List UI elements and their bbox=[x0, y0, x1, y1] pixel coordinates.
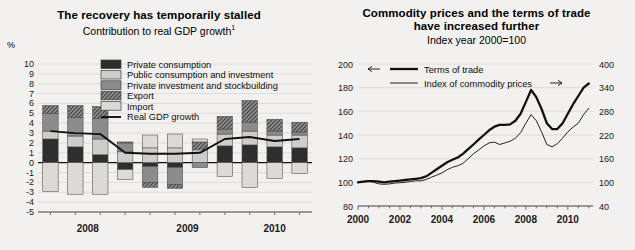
left-y-tick-label: 5 bbox=[29, 108, 34, 118]
bar-segment bbox=[117, 163, 132, 170]
bar-segment bbox=[217, 163, 232, 177]
right-x-tick-label: 2010 bbox=[557, 214, 580, 225]
bar-segment bbox=[43, 139, 58, 163]
legend-label: Public consumption and investment bbox=[127, 70, 274, 80]
bar-segment bbox=[43, 163, 58, 192]
bar-segment bbox=[142, 163, 157, 167]
right-chart-right-y-tick-label: 100 bbox=[599, 178, 614, 188]
bar-segment bbox=[192, 163, 207, 168]
bar-segment bbox=[43, 105, 58, 113]
left-chart-subtitle-footnote: 1 bbox=[231, 24, 235, 31]
bar-segment bbox=[142, 135, 157, 148]
legend-swatch-hatched-fill-swatch bbox=[101, 91, 121, 100]
bar-segment bbox=[192, 142, 207, 150]
left-chart-title: The recovery has temporarily stalled bbox=[0, 9, 318, 22]
bar-segment bbox=[167, 184, 182, 188]
bar-segment bbox=[242, 122, 257, 131]
bar-segment bbox=[167, 134, 182, 148]
left-chart-plot: 109876543210-1-2-3-4-5200820092010Privat… bbox=[0, 56, 318, 248]
right-chart-panel: Commodity prices and the terms of trade … bbox=[318, 0, 635, 250]
bar-segment bbox=[68, 147, 83, 163]
left-y-tick-label: 7 bbox=[29, 89, 34, 99]
right-chart-right-y-tick-label: 220 bbox=[599, 131, 614, 141]
bar-segment bbox=[117, 143, 132, 152]
left-chart-subtitle: Contribution to real GDP growth1 bbox=[0, 22, 318, 37]
right-chart-subtitle: Index year 2000=100 bbox=[318, 34, 635, 46]
bar-segment bbox=[267, 131, 282, 135]
bar-segment bbox=[292, 122, 307, 132]
bar-segment bbox=[167, 168, 182, 185]
left-x-group-label: 2008 bbox=[77, 223, 100, 234]
legend-label: Real GDP growth bbox=[127, 112, 199, 122]
left-y-tick-label: -1 bbox=[26, 168, 34, 178]
left-y-tick-label: 3 bbox=[29, 128, 34, 138]
legend-label: Import bbox=[127, 102, 154, 112]
bar-segment bbox=[93, 155, 108, 163]
bar-segment bbox=[93, 163, 108, 195]
right-x-tick-label: 2004 bbox=[431, 214, 454, 225]
legend-item: Private consumption bbox=[101, 60, 211, 70]
bar-segment bbox=[93, 118, 108, 139]
right-chart-left-y-tick-label: 120 bbox=[338, 154, 353, 164]
legend-label: Terms of trade bbox=[424, 65, 483, 75]
legend-swatch-dark-fill-swatch bbox=[101, 60, 121, 69]
left-y-tick-label: -5 bbox=[26, 207, 34, 217]
left-arrow-icon bbox=[368, 66, 380, 71]
bar-segment bbox=[43, 113, 58, 131]
left-y-tick-label: -4 bbox=[26, 197, 34, 207]
commodity-prices-line bbox=[358, 108, 589, 184]
bar-segment bbox=[68, 163, 83, 195]
legend-label: Export bbox=[127, 91, 154, 101]
left-y-tick-label: 0 bbox=[29, 158, 34, 168]
left-chart-subtitle-text: Contribution to real GDP growth bbox=[83, 25, 232, 37]
bar-segment bbox=[217, 146, 232, 163]
bar-segment bbox=[217, 116, 232, 129]
right-chart-right-y-tick-label: 160 bbox=[599, 154, 614, 164]
left-y-tick-label: 2 bbox=[29, 138, 34, 148]
bar-segment bbox=[267, 119, 282, 131]
left-y-tick-label: -2 bbox=[26, 177, 34, 187]
right-chart-left-y-tick-label: 200 bbox=[338, 60, 353, 70]
legend-label: Private consumption bbox=[127, 60, 211, 70]
right-x-tick-label: 2006 bbox=[473, 214, 496, 225]
right-arrow-icon bbox=[550, 80, 562, 85]
legend-item: Index of commodity prices bbox=[390, 79, 562, 89]
right-chart-right-y-tick-label: 400 bbox=[599, 60, 614, 70]
legend-item: Terms of trade bbox=[368, 65, 483, 75]
right-chart-right-y-tick-label: 280 bbox=[599, 107, 614, 117]
left-y-tick-label: 4 bbox=[29, 118, 34, 128]
left-y-tick-label: 6 bbox=[29, 98, 34, 108]
legend-item: Private investment and stockbuilding bbox=[101, 81, 278, 91]
left-chart-panel: The recovery has temporarily stalled Con… bbox=[0, 0, 318, 250]
bar-segment bbox=[292, 132, 307, 135]
bar-segment bbox=[68, 105, 83, 117]
right-x-tick-label: 2008 bbox=[515, 214, 538, 225]
bar-segment bbox=[267, 163, 282, 179]
left-x-group-label: 2009 bbox=[176, 223, 199, 234]
left-y-tick-label: 8 bbox=[29, 79, 34, 89]
bar-segment bbox=[242, 163, 257, 188]
right-chart-left-y-tick-label: 100 bbox=[338, 178, 353, 188]
right-chart-title-line1: Commodity prices and the terms of trade bbox=[318, 7, 635, 20]
bar-segment bbox=[142, 167, 157, 183]
bar-segment bbox=[292, 135, 307, 148]
legend-swatch-medium-fill-swatch bbox=[101, 81, 121, 90]
right-chart-left-y-tick-label: 160 bbox=[338, 107, 353, 117]
left-y-tick-label: 1 bbox=[29, 148, 34, 158]
bar-segment bbox=[68, 136, 83, 147]
bar-segment bbox=[167, 148, 182, 163]
bar-segment bbox=[242, 145, 257, 163]
bar-segment bbox=[267, 147, 282, 163]
right-chart-plot: 2001801601401201008040034028022016010040… bbox=[318, 56, 635, 248]
bar-segment bbox=[292, 148, 307, 163]
bar-segment bbox=[93, 139, 108, 155]
bar-segment bbox=[217, 129, 232, 134]
left-x-group-label: 2010 bbox=[264, 223, 287, 234]
legend-label: Index of commodity prices bbox=[424, 79, 532, 89]
legend-item: Export bbox=[101, 91, 154, 101]
right-x-tick-label: 2002 bbox=[389, 214, 412, 225]
bar-segment bbox=[292, 163, 307, 174]
right-chart-right-y-tick-label: 40 bbox=[599, 202, 609, 212]
bar-segment bbox=[117, 170, 132, 180]
legend-item: Public consumption and investment bbox=[101, 70, 274, 80]
